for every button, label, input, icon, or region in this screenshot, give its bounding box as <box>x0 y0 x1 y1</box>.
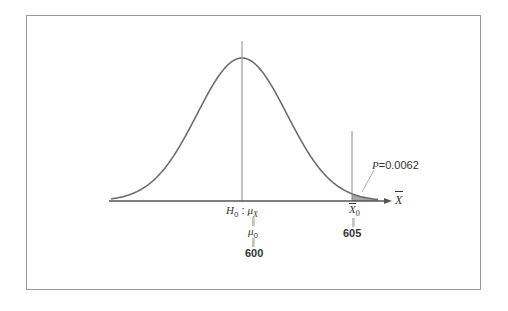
p-value-label: P=0.0062 <box>372 160 419 171</box>
xbar0-label: X0 <box>349 204 360 218</box>
normal-curve <box>111 58 378 200</box>
x-axis-label: X <box>395 194 402 206</box>
mean-value: 600 <box>245 248 263 259</box>
observed-value: 605 <box>343 228 361 239</box>
p-value-pointer <box>362 170 374 192</box>
x-axis-arrow-icon <box>384 198 392 204</box>
normal-distribution-plot <box>0 0 508 311</box>
equals-sign-2: || <box>252 238 255 247</box>
equals-sign-3: || <box>352 218 355 227</box>
